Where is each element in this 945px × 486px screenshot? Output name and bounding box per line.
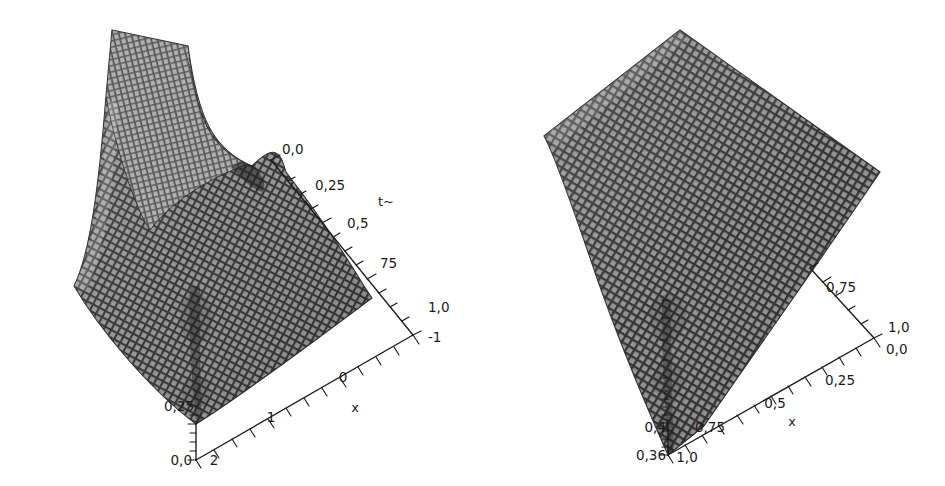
right-x-axis-title: x	[788, 414, 796, 429]
right-z-tick-1: 0,36	[636, 447, 666, 463]
right-x-tick-2: 0,5	[764, 395, 785, 411]
right-z-tick-0: 0,4	[645, 419, 666, 435]
right-x-tick-3: 0,75	[695, 419, 725, 435]
left-y-tick-0: 0,0	[282, 141, 303, 157]
figure-canvas: 0,0 0,25 0,5 75 1,0 t~ -1 0 1 2 x 0,25 0…	[0, 0, 945, 486]
left-y-tick-2: 0,5	[347, 215, 368, 231]
right-x-tick-4: 1,0	[676, 449, 697, 465]
left-y-tick-4: 1,0	[428, 299, 449, 315]
left-z-tick-1: 0,0	[171, 452, 192, 468]
left-y-tick-3: 75	[380, 255, 397, 271]
right-y-tick-0: 0,75	[826, 279, 856, 295]
right-y-tick-1: 1,0	[888, 319, 909, 335]
left-y-tick-1: 0,25	[315, 177, 345, 193]
left-x-tick-3: 2	[210, 452, 219, 468]
left-x-tick-1: 0	[339, 369, 348, 385]
right-surface-svg: 0,75 1,0 0,0 0,25 0,5 0,75 1,0 x 0,4 0,3…	[472, 0, 945, 486]
left-x-axis-title: x	[351, 400, 359, 415]
left-surface-svg: 0,0 0,25 0,5 75 1,0 t~ -1 0 1 2 x 0,25 0…	[0, 0, 472, 486]
left-x-tick-0: -1	[428, 329, 441, 345]
right-surface-plot: 0,75 1,0 0,0 0,25 0,5 0,75 1,0 x 0,4 0,3…	[472, 0, 945, 486]
right-x-tick-0: 0,0	[886, 341, 907, 357]
right-surface-mesh	[544, 30, 880, 455]
left-x-tick-2: 1	[267, 409, 276, 425]
right-x-tick-1: 0,25	[825, 372, 855, 388]
left-z-tick-0: 0,25	[164, 398, 194, 414]
right-y-ticks	[810, 263, 882, 338]
left-y-axis-title: t~	[378, 194, 394, 209]
left-surface-plot: 0,0 0,25 0,5 75 1,0 t~ -1 0 1 2 x 0,25 0…	[0, 0, 472, 486]
